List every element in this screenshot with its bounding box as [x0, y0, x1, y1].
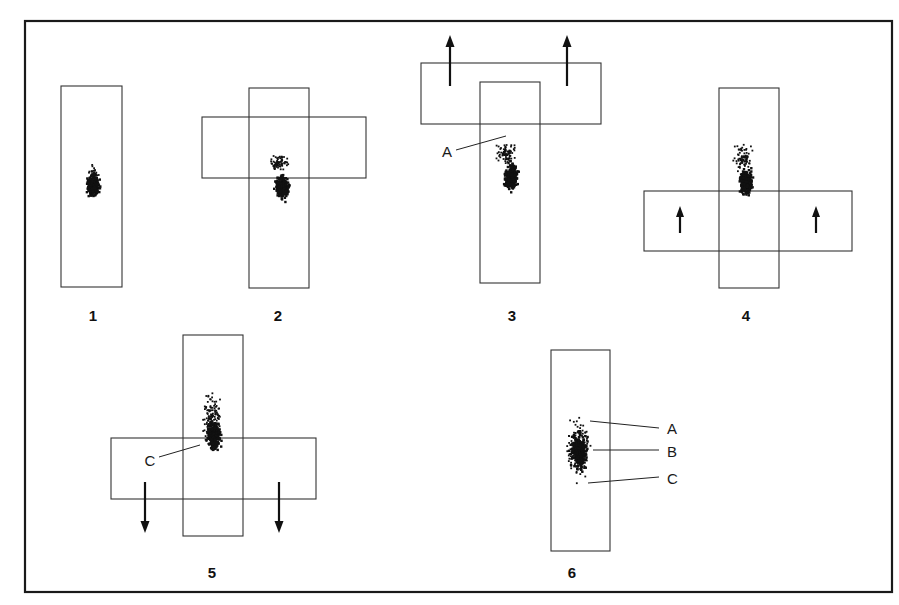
- spot-cluster: [732, 144, 754, 197]
- arrow-up-icon: [812, 206, 820, 233]
- arrow-down-icon: [141, 482, 150, 533]
- spot-cluster: [496, 144, 520, 193]
- outer-frame: [25, 21, 892, 592]
- panel-number: 3: [508, 307, 516, 324]
- panel-number: 6: [568, 564, 576, 581]
- arrow-up-icon: [446, 35, 455, 86]
- band-label-a: A: [667, 420, 677, 437]
- horizontal-strip: [421, 63, 601, 124]
- band-label-c: C: [145, 452, 156, 469]
- diagram-figure: 1 2 A 3: [0, 0, 899, 605]
- arrow-up-icon: [676, 206, 684, 233]
- panel-number: 4: [742, 307, 751, 324]
- panel-1: 1: [61, 86, 122, 324]
- leader-line-c: [159, 445, 200, 457]
- leader-line-c: [588, 477, 659, 483]
- panel-number: 1: [89, 307, 97, 324]
- arrow-up-icon: [563, 35, 572, 86]
- panel-6: A B C 6: [551, 350, 678, 581]
- leader-line-a: [456, 136, 506, 150]
- band-label-b: B: [667, 443, 677, 460]
- spot-cluster: [270, 155, 291, 203]
- band-label-a: A: [442, 143, 452, 160]
- panel-number: 5: [208, 564, 216, 581]
- panel-3: A 3: [421, 35, 601, 324]
- panel-4: 4: [644, 88, 852, 324]
- arrow-down-icon: [275, 482, 284, 533]
- leader-line-a: [590, 421, 659, 428]
- band-label-c: C: [667, 470, 678, 487]
- spot-cluster: [202, 392, 223, 451]
- panel-5: C 5: [111, 335, 316, 581]
- spot-cluster: [86, 164, 102, 197]
- panel-number: 2: [274, 307, 282, 324]
- panel-2: 2: [202, 88, 366, 324]
- horizontal-strip: [644, 191, 852, 251]
- spot-cluster: [566, 417, 591, 484]
